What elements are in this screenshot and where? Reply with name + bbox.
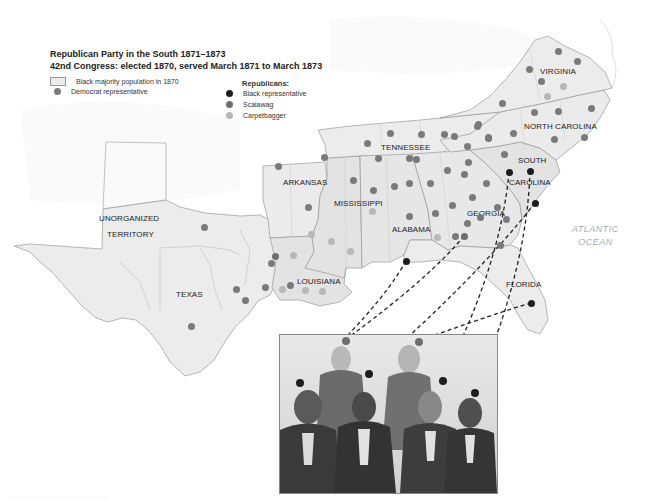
democrat-representative-marker-icon [413,156,420,163]
democrat-representative-marker-icon [432,210,439,217]
state-label-texas: TEXAS [176,290,203,299]
democrat-representative-marker-icon [444,167,451,174]
democrat-representative-marker-icon [406,180,413,187]
democrat-representative-marker-icon [538,78,545,85]
state-label-virginia: VIRGINIA [540,67,576,76]
democrat-representative-marker-icon [531,109,538,116]
black-representative-marker-icon [532,200,539,207]
democrat-representative-marker-icon [375,155,382,162]
legend-carpetbagger: Carpetbagger [222,112,286,119]
carpetbagger-representative-marker-icon [290,252,297,259]
legend-black-majority: Black majority population in 1870 [50,77,179,86]
carpetbagger-representative-marker-icon [434,234,441,241]
democrat-representative-marker-icon [262,284,269,291]
democrat-representative-marker-icon [387,130,394,137]
carpetbagger-representative-marker-icon [328,238,335,245]
state-label-unorganized: UNORGANIZED [99,214,159,223]
carpetbagger-representative-marker-icon [347,248,354,255]
legend-democrat: Democrat representative [50,88,148,95]
democrat-representative-marker-icon [497,242,504,249]
footer-caption: · · · · · · · · · · · · · · · · · · · · … [10,494,106,500]
black-representative-marker-icon [403,258,410,265]
carpetbagger-representative-marker-icon [319,288,326,295]
representatives-portrait [279,334,498,494]
democrat-representative-marker-icon [268,260,275,267]
democrat-representative-marker-icon [188,323,195,330]
black-representative-marker-icon [506,169,513,176]
state-label-territory: TERRITORY [107,230,154,239]
democrat-representative-marker-icon [464,220,471,227]
portrait-pin-icon [439,377,447,385]
portrait-pin-icon [415,338,423,346]
state-label-south: SOUTH [518,156,547,165]
democrat-representative-marker-icon [475,121,482,128]
democrat-representative-marker-icon [551,136,558,143]
democrat-representative-marker-icon [555,48,562,55]
scalawag-representative-marker-icon [461,233,468,240]
legend-scalawag: Scalawag [222,101,273,108]
democrat-representative-marker-icon [406,155,413,162]
democrat-representative-marker-icon [391,183,398,190]
portrait-engraving [280,335,497,493]
democrat-representative-marker-icon [469,194,476,201]
democrat-representative-marker-icon [370,187,377,194]
democrat-representative-marker-icon [441,131,448,138]
democrat-representative-marker-icon [494,204,501,211]
state-label-florida: FLORIDA [506,280,541,289]
scalawag-representative-marker-icon [272,253,279,260]
carpetbagger-representative-marker-icon [560,83,567,90]
democrat-representative-marker-icon [477,214,484,221]
democrat-representative-marker-icon [350,177,357,184]
democrat-representative-marker-icon [305,204,312,211]
black-representative-marker-icon [527,168,534,175]
democrat-representative-marker-icon [242,297,249,304]
portrait-pin-icon [365,370,373,378]
democrat-representative-marker-icon [321,154,328,161]
atlantic-ocean-label: ATLANTIC OCEAN [572,224,619,247]
legend-republicans-heading: Republicans: [242,79,289,88]
portrait-pin-icon [296,379,304,387]
state-label-mississippi: MISSISSIPPI [334,199,383,208]
map-figure: Republican Party in the South 1871–1873 … [0,0,651,500]
carpetbagger-representative-marker-icon [279,286,286,293]
democrat-representative-marker-icon [465,159,472,166]
democrat-representative-marker-icon [233,286,240,293]
portrait-pin-icon [342,337,350,345]
democrat-representative-marker-icon [364,140,371,147]
black-representative-marker-icon [528,300,535,307]
democrat-representative-marker-icon [581,134,588,141]
democrat-representative-marker-icon [451,133,458,140]
carpetbagger-representative-marker-icon [544,93,551,100]
democrat-representative-marker-icon [574,58,581,65]
carpetbagger-dot-icon [226,112,233,119]
carpetbagger-representative-marker-icon [369,208,376,215]
democrat-representative-marker-icon [287,282,294,289]
democrat-representative-marker-icon [503,216,510,223]
democrat-representative-marker-icon [588,105,595,112]
state-label-arkansas: ARKANSAS [283,178,327,187]
state-label-tennessee: TENNESSEE [381,143,430,152]
democrat-representative-marker-icon [510,130,517,137]
democrat-representative-marker-icon [464,143,471,150]
democrat-representative-marker-icon [501,151,508,158]
democrat-representative-marker-icon [483,180,490,187]
state-label-carolina: CAROLINA [509,178,551,187]
democrat-representative-marker-icon [485,134,492,141]
democrat-representative-marker-icon [452,233,459,240]
scalawag-dot-icon [226,101,233,108]
state-label-north-carolina: NORTH CAROLINA [524,122,597,131]
black-majority-swatch-icon [50,77,66,86]
democrat-representative-marker-icon [526,66,533,73]
democrat-representative-marker-icon [555,108,562,115]
democrat-dot-icon [54,88,61,95]
portrait-pin-icon [471,389,479,397]
democrat-representative-marker-icon [499,100,506,107]
democrat-representative-marker-icon [201,224,208,231]
democrat-representative-marker-icon [427,180,434,187]
black-representative-dot-icon [226,90,233,97]
state-label-louisiana: LOUISIANA [297,277,341,286]
democrat-representative-marker-icon [461,171,468,178]
legend-black-representative: Black representative [222,90,306,97]
legend: Black majority population in 1870 Democr… [0,0,651,120]
democrat-representative-marker-icon [449,202,456,209]
